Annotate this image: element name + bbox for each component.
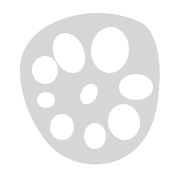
lotus-root-illustration xyxy=(0,0,180,176)
lotus-hole-5 xyxy=(37,92,55,108)
lotus-hole-8 xyxy=(84,123,106,149)
lotus-hole-7 xyxy=(50,114,74,140)
lotus-hole-4 xyxy=(119,74,153,100)
lotus-root-graphic xyxy=(0,0,180,176)
lotus-hole-3 xyxy=(32,56,58,84)
